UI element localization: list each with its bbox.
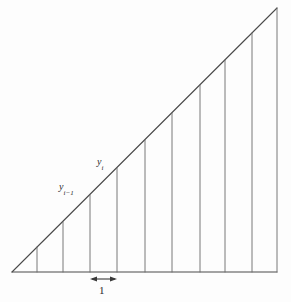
- label-unit-width: 1: [99, 285, 105, 296]
- label-y-i-base: y: [97, 156, 102, 167]
- figure-container: yi−1 yi 1: [0, 0, 291, 302]
- label-y-i: yi: [97, 157, 104, 170]
- label-y-i-minus-1-subscript: i−1: [64, 189, 74, 197]
- triangle-diagram-svg: [0, 0, 291, 302]
- unit-dimension-arrow: [90, 276, 117, 281]
- label-y-i-minus-1: yi−1: [59, 182, 74, 195]
- arrow-head-left-icon: [90, 276, 97, 281]
- label-y-i-subscript: i: [102, 164, 104, 172]
- triangle-hypotenuse-line: [12, 8, 277, 272]
- arrow-head-right-icon: [110, 276, 117, 281]
- label-y-i-minus-1-base: y: [59, 181, 64, 192]
